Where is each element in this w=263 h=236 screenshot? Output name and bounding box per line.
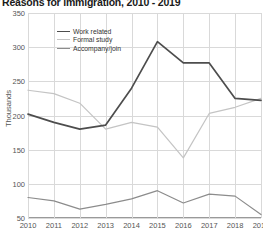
x-tick-label: 2013 [97,221,114,230]
x-tick-label: 2011 [46,221,62,230]
series-line-accompany-join [28,191,261,215]
x-tick-label: 2017 [201,221,218,230]
legend-label: Formal study [73,36,112,43]
x-tick-label: 2014 [123,221,140,230]
x-tick-label: 2018 [227,221,244,230]
legend-item[interactable]: Accompany/join [57,44,121,52]
legend-swatch-icon [57,48,70,49]
gridline-vertical [261,13,262,218]
legend-swatch-icon [57,31,70,32]
chart-title: Reasons for immigration, 2010 - 2019 [2,0,180,8]
chart-legend: Work relatedFormal studyAccompany/join [57,27,121,52]
immigration-line-chart: Reasons for immigration, 2010 - 2019 Tho… [0,0,263,236]
x-tick-label: 2019 [253,221,263,230]
y-tick-label: 150 [12,145,25,154]
y-tick-label: 250 [12,77,25,86]
legend-item[interactable]: Formal study [57,36,121,44]
legend-item[interactable]: Work related [57,27,121,35]
series-line-work-related [28,42,261,129]
y-tick-label: 200 [12,111,25,120]
gridline-horizontal [28,218,261,219]
legend-swatch-icon [57,39,70,40]
legend-label: Accompany/join [73,45,121,52]
x-tick-label: 2015 [149,221,166,230]
x-tick-label: 2012 [71,221,88,230]
y-axis-title: Thousands [4,79,13,139]
y-tick-label: 300 [12,43,25,52]
y-tick-label: 100 [12,179,25,188]
legend-label: Work related [73,28,111,35]
y-tick-label: 350 [12,9,25,18]
x-tick-label: 2010 [20,221,37,230]
x-tick-label: 2016 [175,221,192,230]
